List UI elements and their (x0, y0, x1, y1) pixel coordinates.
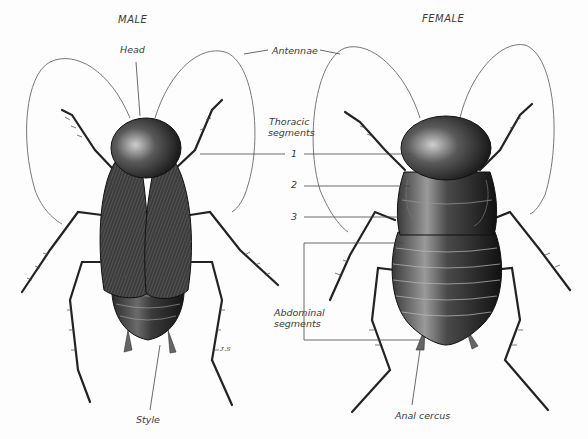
panel-title-male: MALE (118, 14, 147, 25)
female-cockroach (313, 45, 570, 412)
female-thorax (397, 172, 496, 235)
label-thoracic-line2: segments (268, 127, 315, 138)
male-pronotum (111, 118, 181, 178)
panel-title-female: FEMALE (422, 13, 464, 24)
male-cercus-right (168, 330, 176, 353)
label-segment-2: 2 (291, 179, 297, 190)
label-antennae: Antennae (272, 45, 318, 56)
male-wing-left (100, 158, 148, 298)
label-segment-3: 3 (291, 211, 297, 222)
male-wing-right (145, 158, 192, 299)
male-cockroach (22, 51, 278, 405)
female-pronotum (401, 116, 491, 180)
male-cercus-left (124, 330, 132, 352)
anal-cercus-leader (412, 350, 420, 405)
anatomy-figure: MALE FEMALE Head Antennae Thoracic segme… (0, 0, 588, 439)
antennae-leader-right (320, 50, 340, 54)
female-abdomen (392, 232, 501, 345)
label-segment-1: 1 (291, 148, 297, 159)
label-head: Head (120, 44, 145, 55)
label-anal-cercus: Anal cercus (395, 410, 450, 421)
label-thoracic-line1: Thoracic (269, 116, 309, 127)
label-abdominal-line2: segments (274, 318, 321, 329)
label-style: Style (136, 414, 160, 425)
style-leader (150, 345, 160, 410)
label-abdominal-line1: Abdominal (274, 307, 325, 318)
head-leader (136, 62, 140, 116)
antennae-leader-left (244, 50, 268, 54)
artist-signature: ᴊ.ꜱ (220, 344, 231, 353)
